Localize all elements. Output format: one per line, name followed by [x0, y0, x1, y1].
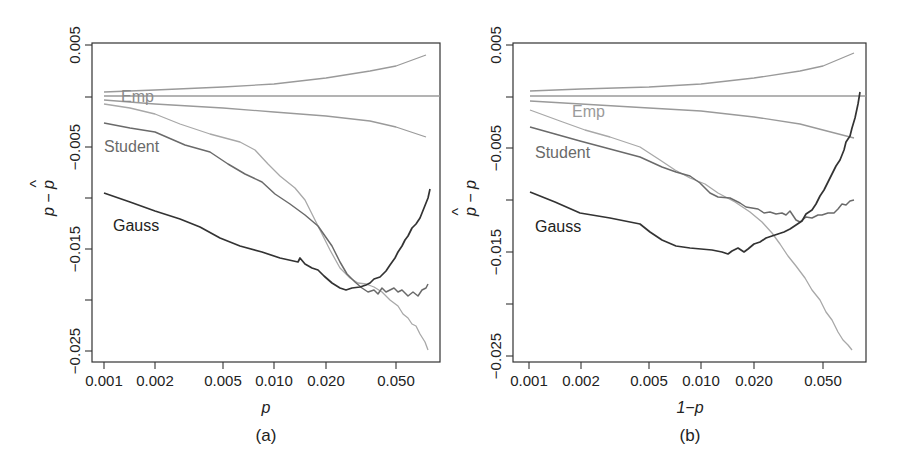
gauss-line [104, 189, 430, 290]
series-lines-b [530, 53, 866, 350]
x-tick-label: 0.005 [630, 372, 668, 389]
y-ticks-a [85, 45, 92, 351]
plot-frame-b [513, 43, 866, 362]
y-tick-label: −0.025 [487, 333, 504, 379]
x-axis-title-b: 1−p [676, 399, 703, 416]
x-tick-label: 0.001 [85, 372, 123, 389]
x-tick-label: 0.002 [136, 372, 174, 389]
emp-upper-band-line [104, 55, 426, 92]
y-tick-label: −0.005 [487, 125, 504, 171]
panel-b: 0.005 −0.005 −0.015 −0.025 p − p ^ 0.001… [450, 26, 866, 445]
x-tick-label: 0.002 [562, 372, 600, 389]
y-axis-title-b: p − p ^ [450, 180, 479, 217]
x-tick-label: 0.050 [804, 372, 842, 389]
gauss-label-b: Gauss [535, 218, 581, 235]
student-label-a: Student [104, 138, 160, 155]
emp-upper-band-line [530, 53, 854, 91]
y-tick-label: −0.015 [487, 229, 504, 275]
panel-caption-b: (b) [680, 426, 701, 445]
emp-label-b: Emp [572, 103, 605, 120]
gauss-label-a: Gauss [113, 217, 159, 234]
x-ticks-b [529, 362, 823, 369]
panel-caption-a: (a) [256, 426, 277, 445]
y-tick-label: −0.015 [66, 226, 83, 272]
y-ticks-b [506, 45, 513, 356]
panel-a: 0.005 −0.005 −0.015 −0.025 p − p ^ 0.001… [28, 26, 440, 445]
series-lines-a [104, 55, 440, 350]
x-tick-label: 0.050 [377, 372, 415, 389]
x-tick-label: 0.005 [204, 372, 242, 389]
x-tick-label: 0.010 [255, 372, 293, 389]
x-tick-label: 0.010 [682, 372, 720, 389]
student-label-b: Student [535, 144, 591, 161]
y-tick-label: −0.025 [66, 328, 83, 374]
y-tick-label: −0.005 [66, 124, 83, 170]
student-line [530, 127, 854, 222]
x-tick-label: 0.020 [735, 372, 773, 389]
x-tick-label: 0.001 [510, 372, 548, 389]
figure: 0.005 −0.005 −0.015 −0.025 p − p ^ 0.001… [0, 0, 902, 473]
y-axis-title-a: p − p ^ [28, 180, 57, 217]
emp-label-a: Emp [121, 88, 154, 105]
y-tick-label: 0.005 [66, 26, 83, 64]
x-axis-title-a: p [261, 399, 271, 416]
x-ticks-a [104, 362, 396, 369]
hat-accent: ^ [450, 208, 467, 216]
hat-accent: ^ [28, 180, 45, 188]
x-tick-label: 0.020 [307, 372, 345, 389]
y-tick-label: 0.005 [487, 26, 504, 64]
